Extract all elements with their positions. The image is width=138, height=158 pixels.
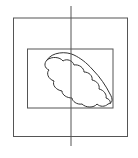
cloud-shape (45, 53, 112, 107)
diagram-canvas (0, 0, 138, 158)
